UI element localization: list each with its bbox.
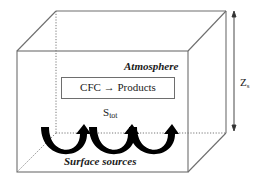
atmosphere-label: Atmosphere bbox=[124, 60, 178, 72]
height-subscript: s bbox=[247, 82, 250, 90]
flux-arrows bbox=[41, 124, 179, 154]
height-symbol: Z bbox=[240, 76, 247, 88]
height-arrow bbox=[232, 11, 236, 131]
height-label: Zs bbox=[240, 76, 249, 90]
surface-sources-label: Surface sources bbox=[64, 155, 136, 167]
reaction-label: CFC → Products bbox=[61, 81, 175, 93]
source-subscript: tot bbox=[109, 111, 117, 120]
flux-arrow-icon bbox=[41, 124, 91, 154]
flux-arrow-icon bbox=[129, 124, 179, 154]
total-source-label: Stot bbox=[103, 106, 118, 120]
